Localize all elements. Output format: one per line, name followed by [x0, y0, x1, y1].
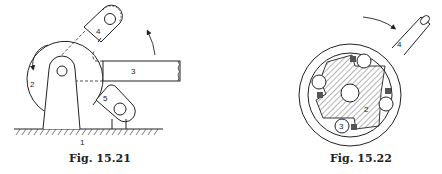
figure-15-22: [299, 14, 431, 146]
label-2: 2: [30, 80, 35, 89]
rotation-arrow-icon: [363, 17, 394, 28]
upper-pawl: [84, 5, 122, 42]
pivot-pin: [57, 66, 67, 76]
roller: [312, 75, 326, 89]
motion-arrow-icon: [148, 32, 155, 55]
label-2: 2: [364, 105, 369, 114]
label-4: 4: [96, 27, 101, 36]
roller: [379, 97, 393, 111]
label-3: 3: [131, 67, 136, 76]
label-5: 5: [103, 94, 108, 103]
hub-bore: [341, 84, 359, 102]
label-4: 4: [397, 40, 402, 49]
roller: [357, 54, 371, 68]
label-3: 3: [339, 122, 344, 131]
bar-3: [103, 61, 180, 81]
figure-caption: Fig. 15.21: [69, 152, 131, 165]
label-1: 1: [80, 138, 85, 147]
diagram-canvas: 4 3 2 5 1 4 2 3: [0, 0, 442, 174]
figure-15-21: [14, 5, 180, 135]
ground-hatching: [16, 129, 158, 135]
figure-caption: Fig. 15.22: [330, 152, 392, 165]
